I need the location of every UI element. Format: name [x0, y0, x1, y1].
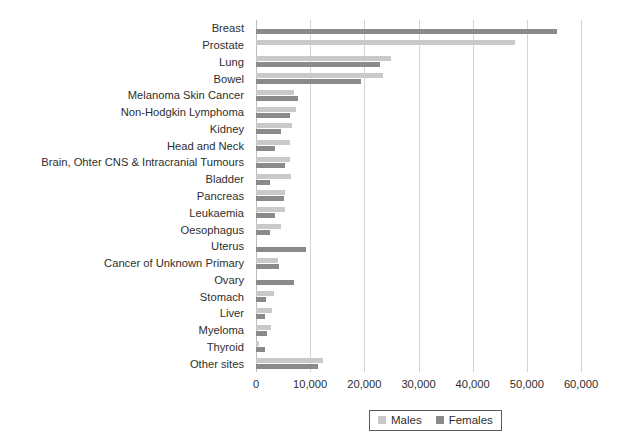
- bar-males: [256, 56, 391, 61]
- bar-group: [256, 70, 581, 87]
- bar-females: [256, 280, 294, 285]
- bar-group: [256, 37, 581, 54]
- bar-males: [256, 291, 274, 296]
- bar-females: [256, 180, 270, 185]
- x-tick-label: 50,000: [510, 378, 544, 390]
- bar-females: [256, 364, 318, 369]
- category-label: Stomach: [200, 291, 244, 303]
- bar-males: [256, 174, 291, 179]
- bar-females: [256, 264, 279, 269]
- x-tick-label: 0: [253, 378, 259, 390]
- category-label: Lung: [219, 56, 244, 68]
- bar-females: [256, 247, 306, 252]
- bar-group: [256, 54, 581, 71]
- category-label: Leukaemia: [189, 207, 244, 219]
- x-tick-label: 20,000: [347, 378, 381, 390]
- bar-group: [256, 20, 581, 37]
- bar-males: [256, 123, 292, 128]
- category-label: Ovary: [214, 274, 244, 286]
- bar-group: [256, 355, 581, 372]
- bar-group: [256, 137, 581, 154]
- bar-males: [256, 258, 278, 263]
- bar-chart: BreastProstateLungBowelMelanoma Skin Can…: [0, 0, 621, 445]
- bar-females: [256, 146, 275, 151]
- legend-item-females[interactable]: Females: [436, 414, 493, 426]
- bar-males: [256, 341, 259, 346]
- category-label: Uterus: [211, 240, 244, 252]
- bar-males: [256, 224, 281, 229]
- bar-males: [256, 207, 285, 212]
- legend-item-males[interactable]: Males: [378, 414, 422, 426]
- bar-males: [256, 107, 296, 112]
- bar-females: [256, 213, 275, 218]
- bar-group: [256, 338, 581, 355]
- category-axis-labels: BreastProstateLungBowelMelanoma Skin Can…: [0, 20, 250, 372]
- bar-group: [256, 188, 581, 205]
- category-label: Non-Hodgkin Lymphoma: [121, 106, 244, 118]
- category-label: Thyroid: [207, 341, 244, 353]
- bar-females: [256, 331, 267, 336]
- bar-group: [256, 221, 581, 238]
- bar-females: [256, 230, 270, 235]
- category-label: Oesophagus: [181, 224, 244, 236]
- bar-group: [256, 171, 581, 188]
- bar-males: [256, 358, 323, 363]
- bar-group: [256, 154, 581, 171]
- bar-males: [256, 308, 272, 313]
- legend-label-males: Males: [391, 414, 422, 426]
- bar-group: [256, 87, 581, 104]
- bar-males: [256, 90, 294, 95]
- gridline-60000: [581, 20, 582, 372]
- x-tick-label: 60,000: [564, 378, 598, 390]
- value-axis: 010,00020,00030,00040,00050,00060,000: [256, 372, 581, 394]
- bar-males: [256, 157, 290, 162]
- category-label: Cancer of Unknown Primary: [104, 257, 244, 269]
- bar-group: [256, 288, 581, 305]
- bar-females: [256, 62, 380, 67]
- bar-females: [256, 129, 281, 134]
- x-tick-label: 10,000: [293, 378, 327, 390]
- bar-males: [256, 40, 515, 45]
- bar-group: [256, 305, 581, 322]
- bar-group: [256, 104, 581, 121]
- category-label: Head and Neck: [167, 140, 244, 152]
- bar-females: [256, 79, 361, 84]
- bar-females: [256, 314, 265, 319]
- category-label: Liver: [220, 307, 244, 319]
- bar-males: [256, 140, 290, 145]
- males-swatch-icon: [378, 416, 386, 424]
- x-tick-label: 30,000: [401, 378, 435, 390]
- category-label: Pancreas: [197, 190, 244, 202]
- bar-males: [256, 73, 383, 78]
- category-label: Prostate: [202, 39, 244, 51]
- bar-females: [256, 113, 290, 118]
- bar-males: [256, 190, 285, 195]
- category-label: Myeloma: [199, 324, 244, 336]
- bar-group: [256, 204, 581, 221]
- bar-group: [256, 121, 581, 138]
- bar-females: [256, 347, 265, 352]
- category-label: Bowel: [214, 73, 244, 85]
- bar-group: [256, 322, 581, 339]
- bar-group: [256, 255, 581, 272]
- category-label: Kidney: [210, 123, 244, 135]
- bar-group: [256, 271, 581, 288]
- bar-group: [256, 238, 581, 255]
- females-swatch-icon: [436, 416, 444, 424]
- bar-females: [256, 29, 557, 34]
- category-label: Brain, Ohter CNS & Intracranial Tumours: [41, 156, 244, 168]
- bar-rows: [256, 20, 581, 372]
- chart-legend: Males Females: [369, 410, 502, 431]
- plot-area: [256, 20, 581, 372]
- category-label: Melanoma Skin Cancer: [128, 89, 244, 101]
- bar-males: [256, 325, 271, 330]
- legend-label-females: Females: [449, 414, 493, 426]
- category-label: Bladder: [205, 173, 244, 185]
- bar-females: [256, 196, 284, 201]
- category-label: Breast: [212, 22, 244, 34]
- category-label: Other sites: [190, 358, 244, 370]
- bar-females: [256, 297, 266, 302]
- x-tick-label: 40,000: [456, 378, 490, 390]
- bar-females: [256, 163, 285, 168]
- bar-females: [256, 96, 298, 101]
